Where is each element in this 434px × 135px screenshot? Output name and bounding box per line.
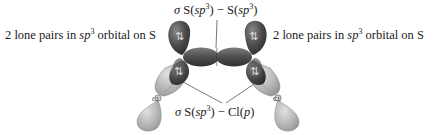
label-part: − [214, 3, 227, 17]
label-part: Cl( [228, 105, 244, 119]
label-part: − [215, 105, 228, 119]
label-right-lone-pairs: 2 lone pairs in sp3 orbital on S [273, 28, 424, 42]
label-part: sp [195, 105, 206, 119]
right-lone-pair-upper-glyph: ⇅ [249, 30, 258, 43]
label-part: S( [227, 3, 238, 17]
leader-line-ss [216, 20, 217, 48]
label-part: 2 lone pairs in [273, 28, 347, 42]
cl-right-label: Cl [273, 95, 280, 103]
sigma-symbol: σ [174, 3, 180, 17]
label-ss-sigma-bond: σ S(sp3) − S(sp3) [174, 3, 257, 17]
ss-sigma-bond [183, 48, 252, 67]
left-lone-pair-upper-glyph: ⇅ [175, 30, 184, 43]
right-lone-pair-lower-glyph: ⇅ [250, 65, 259, 78]
label-scl-sigma-bond: σ S(sp3) − Cl(p) [175, 105, 254, 119]
cl-left-label: Cl [152, 95, 159, 103]
label-part: S( [184, 105, 195, 119]
label-part: orbital on S [94, 28, 155, 42]
label-part: sp [79, 28, 90, 42]
leader-line-scl-right [226, 84, 254, 103]
sigma-symbol: σ [175, 105, 181, 119]
left-lone-pair-lower-glyph: ⇅ [174, 65, 183, 78]
label-part: sp [347, 28, 358, 42]
label-part: ) [250, 105, 254, 119]
label-part: sp [238, 3, 249, 17]
label-left-lone-pairs: 2 lone pairs in sp3 orbital on S [5, 28, 156, 42]
leader-line-scl-left [183, 82, 222, 103]
label-part: orbital on S [362, 28, 423, 42]
label-part: ) [253, 3, 257, 17]
label-part: 2 lone pairs in [5, 28, 79, 42]
label-part: sp [194, 3, 205, 17]
label-part: S( [183, 3, 194, 17]
